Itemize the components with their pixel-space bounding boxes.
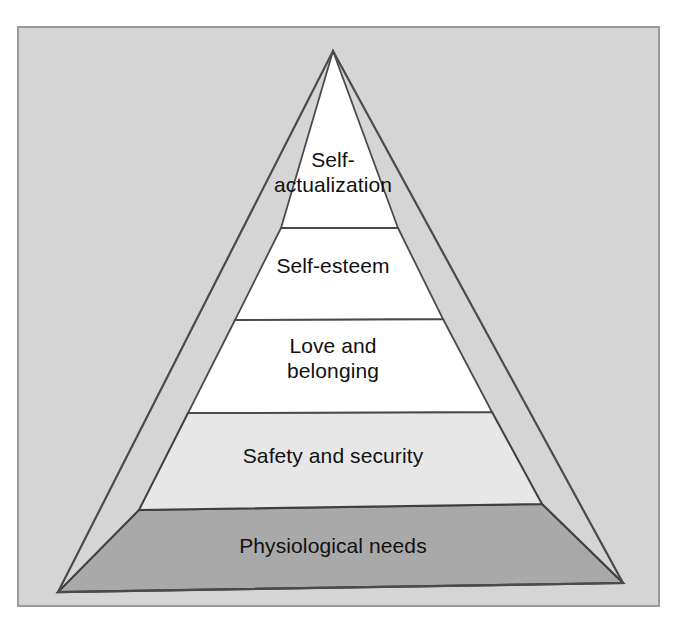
pyramid-tier-physiological-needs[interactable] <box>58 504 623 592</box>
pyramid-diagram <box>0 0 676 626</box>
pyramid-tier-safety-and-security[interactable] <box>139 412 542 510</box>
figure-canvas: Self- actualization Self-esteem Love and… <box>0 0 676 626</box>
pyramid-tier-love-and-belonging[interactable] <box>188 319 492 413</box>
pyramid-tier-self-esteem[interactable] <box>235 228 443 320</box>
